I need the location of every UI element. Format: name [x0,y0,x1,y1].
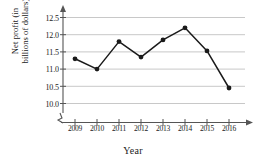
y-axis [60,5,66,113]
x-tick-label-2016: 2016 [216,124,242,133]
data-point-2013 [161,38,166,43]
axis-break-zigzag-icon [58,113,63,123]
data-point-2015 [205,49,210,54]
data-point-2010 [95,67,100,72]
plot-area [0,0,266,163]
data-point-2011 [117,39,122,44]
data-point-2014 [183,25,188,30]
data-point-2009 [73,56,78,61]
x-axis-label: Year [0,145,266,156]
data-line-net-profit [75,28,229,88]
line-chart: Net profit (in billions of dollars) 12.5… [0,0,266,163]
gridlines [63,18,245,104]
data-point-2012 [139,55,144,60]
data-point-2016 [227,86,232,91]
